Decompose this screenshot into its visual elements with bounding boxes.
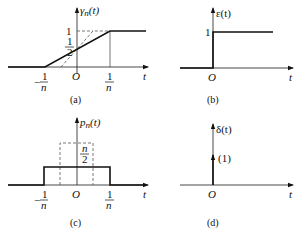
- caption-a: (a): [70, 94, 81, 106]
- height-label: n 2: [80, 142, 89, 165]
- step-signal: [180, 32, 273, 68]
- panel-d: δ(t) (1) t O (d): [180, 123, 293, 229]
- svg-text:2: 2: [67, 46, 73, 58]
- half-label: 1 2: [65, 35, 74, 58]
- y-label: pn(t): [79, 116, 101, 130]
- svg-text:n: n: [41, 81, 47, 93]
- pos-tick-label: 1 n: [105, 70, 114, 93]
- t-label: t: [143, 70, 147, 82]
- pos-tick-label: 1 n: [105, 188, 114, 211]
- t-label: t: [143, 188, 147, 200]
- level-one-label: 1: [205, 26, 211, 38]
- svg-text:n: n: [106, 81, 112, 93]
- t-label: t: [289, 71, 293, 83]
- panel-a: γn(t) t O 1 1 2 − 1 n 1 n (a): [8, 4, 148, 106]
- y-label: γn(t): [80, 4, 100, 18]
- origin-label: O: [72, 188, 80, 200]
- panel-b: ε(t) t O 1 (b): [180, 7, 293, 106]
- origin-label: O: [72, 70, 80, 82]
- neg-tick-label: − 1 n: [34, 70, 48, 93]
- svg-text:2: 2: [82, 153, 88, 165]
- origin-label: O: [208, 188, 216, 200]
- t-label: t: [289, 188, 293, 200]
- svg-text:n: n: [106, 199, 112, 211]
- origin-label: O: [208, 71, 216, 83]
- caption-d: (d): [207, 217, 219, 229]
- caption-b: (b): [207, 94, 219, 106]
- neg-tick-label: − 1 n: [34, 188, 48, 211]
- narrow-pulse: [60, 143, 93, 185]
- impulse-weight-label: (1): [218, 152, 231, 165]
- svg-text:−: −: [34, 194, 40, 206]
- y-label: ε(t): [216, 7, 231, 20]
- panel-c: pn(t) t O n 2 − 1 n 1 n (c): [8, 116, 148, 229]
- svg-text:−: −: [34, 76, 40, 88]
- svg-text:n: n: [41, 199, 47, 211]
- caption-c: (c): [70, 217, 81, 229]
- y-label: δ(t): [216, 123, 232, 136]
- signal-diagram: γn(t) t O 1 1 2 − 1 n 1 n (a) ε(t) t O 1…: [0, 0, 299, 235]
